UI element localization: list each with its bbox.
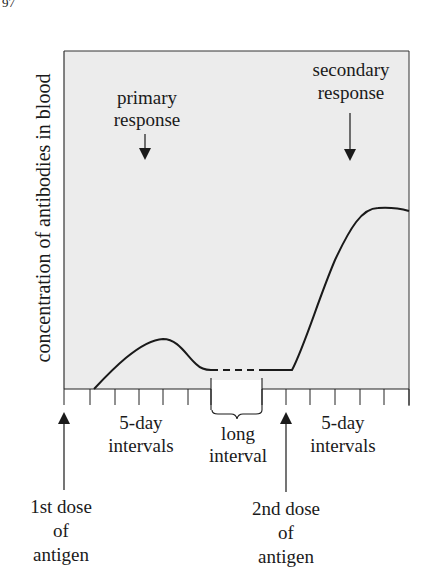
interval-left-label-line2: intervals xyxy=(108,435,173,456)
primary-response-label-line2: response xyxy=(114,109,180,130)
interval-right-label-line2: intervals xyxy=(310,435,375,456)
second-dose-label-line3: antigen xyxy=(258,546,314,567)
antibody-response-diagram: 97 xyxy=(0,0,428,587)
first-dose-label-line2: of xyxy=(53,520,70,541)
second-dose-label-line2: of xyxy=(278,522,295,543)
page-header-fragment: 97 xyxy=(2,0,16,10)
secondary-response-label-line1: secondary xyxy=(312,59,390,80)
interval-left-label-line1: 5-day xyxy=(119,412,163,433)
primary-response-label-line1: primary xyxy=(117,87,178,108)
long-interval-label-line1: long xyxy=(221,423,255,444)
axis-break-gap xyxy=(211,380,262,392)
y-axis-label: concentration of antibodies in blood xyxy=(32,74,54,363)
secondary-response-label-line2: response xyxy=(318,82,384,103)
second-dose-label-line1: 2nd dose xyxy=(252,498,320,519)
first-dose-label-line3: antigen xyxy=(33,544,89,565)
first-dose-arrow-icon xyxy=(58,412,70,490)
x-axis-ticks-right xyxy=(262,389,409,405)
interval-right-label-line1: 5-day xyxy=(321,412,365,433)
x-axis-ticks-left xyxy=(64,389,211,405)
second-dose-arrow-icon xyxy=(280,412,292,492)
first-dose-label-line1: 1st dose xyxy=(30,496,92,517)
long-interval-label-line2: interval xyxy=(209,445,267,466)
